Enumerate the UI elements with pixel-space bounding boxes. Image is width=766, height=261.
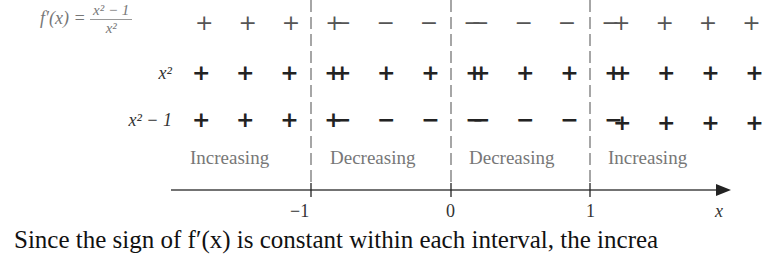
sign-cell: + + + +	[333, 60, 493, 85]
row-label-fprime: f′(x) = x² − 1 x²	[40, 2, 132, 37]
sign-cell: + + + +	[612, 10, 766, 35]
sign-cell: − − − −	[471, 10, 629, 35]
sign-cell: − − − −	[333, 107, 493, 132]
caption-text: Since the sign of f′(x) is constant with…	[14, 226, 658, 254]
tick-label: −1	[290, 201, 309, 222]
axis-arrow-icon	[716, 184, 731, 196]
tick-label: 1	[586, 201, 595, 222]
row-label-x2-minus-1: x² − 1	[100, 110, 172, 131]
sign-cell: + + + +	[192, 107, 352, 132]
interval-label: Increasing	[608, 147, 687, 169]
fraction: x² − 1 x²	[90, 2, 132, 37]
sign-cell: + + + +	[472, 60, 632, 85]
sign-cell: − − − −	[333, 10, 491, 35]
interval-label: Decreasing	[469, 147, 554, 169]
interval-label: Decreasing	[330, 147, 415, 169]
sign-cell: + + + +	[195, 10, 353, 35]
sign-cell: − − − −	[472, 107, 632, 132]
sign-cell: + + + +	[613, 60, 766, 85]
axis-label: x	[715, 201, 723, 222]
sign-cell: + + + +	[613, 110, 766, 135]
sign-cell: + + + +	[192, 60, 352, 85]
tick-label: 0	[446, 201, 455, 222]
row-label-x2: x²	[120, 63, 172, 84]
interval-label: Increasing	[190, 147, 269, 169]
